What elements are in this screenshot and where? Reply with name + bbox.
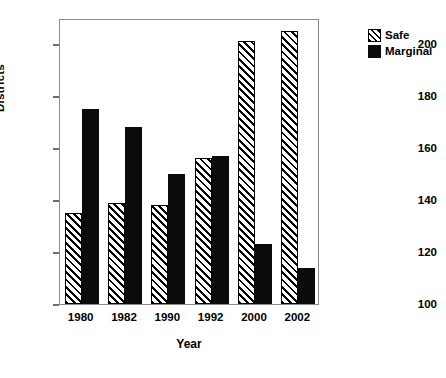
bar-marginal-1980	[82, 109, 99, 304]
bar-safe-1982	[108, 203, 125, 304]
plot-area	[59, 19, 319, 305]
chart-legend: SafeMarginal	[368, 28, 432, 60]
legend-item-safe: Safe	[368, 28, 432, 42]
y-axis-title: Districts	[0, 28, 6, 148]
legend-label: Safe	[385, 29, 409, 42]
bar-marginal-1990	[168, 174, 185, 304]
bar-marginal-2000	[255, 244, 272, 304]
bar-marginal-1992	[212, 156, 229, 304]
legend-swatch-marginal-icon	[368, 45, 381, 58]
legend-item-marginal: Marginal	[368, 44, 432, 58]
bar-chart: Districts 100120140160180200 19801982199…	[0, 0, 446, 378]
legend-swatch-safe-icon	[368, 29, 381, 42]
bar-safe-1980	[65, 213, 82, 304]
x-tick-label-2002: 2002	[267, 311, 327, 323]
y-tick-label: 180	[387, 90, 446, 104]
bar-marginal-2002	[298, 268, 315, 304]
y-tick-label: 120	[387, 246, 446, 260]
y-tick-label: 140	[387, 194, 446, 208]
bar-safe-1992	[195, 158, 212, 304]
legend-label: Marginal	[385, 45, 432, 58]
bar-safe-2000	[238, 41, 255, 304]
y-tick-label: 100	[387, 298, 446, 312]
bar-safe-1990	[151, 205, 168, 304]
bar-safe-2002	[281, 31, 298, 304]
bar-marginal-1982	[125, 127, 142, 304]
x-axis-title: Year	[59, 337, 319, 351]
y-tick-label: 160	[387, 142, 446, 156]
